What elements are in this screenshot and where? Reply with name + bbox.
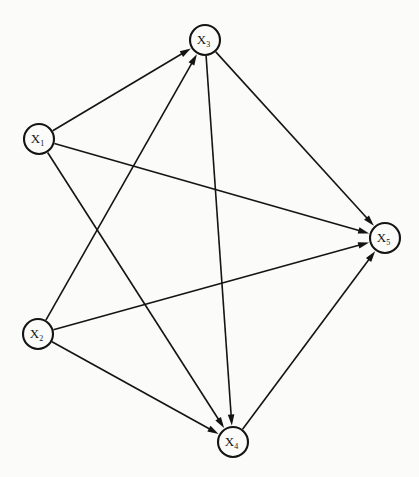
- edge-line: [54, 143, 363, 231]
- arrowhead-icon: [180, 48, 191, 56]
- graph-node-x4[interactable]: X4: [218, 427, 248, 457]
- edge-x4-to-x5: [243, 251, 376, 429]
- edges-layer: [46, 48, 375, 434]
- edge-x3-to-x5: [216, 52, 374, 226]
- graph-node-x3[interactable]: X3: [190, 25, 220, 55]
- arrowhead-icon: [228, 414, 235, 425]
- edge-x2-to-x3: [46, 54, 197, 320]
- edge-line: [243, 256, 372, 429]
- node-subscript-x2: 2: [39, 333, 43, 342]
- edge-line: [52, 342, 213, 431]
- edge-x1-to-x5: [54, 143, 369, 233]
- edge-x1-to-x3: [53, 48, 191, 130]
- node-subscript-x1: 1: [40, 138, 44, 147]
- edge-line: [48, 152, 221, 423]
- arrowhead-icon: [358, 227, 369, 233]
- edge-x2-to-x5: [53, 242, 369, 330]
- graph-node-x5[interactable]: X5: [370, 223, 400, 253]
- edge-line: [53, 244, 363, 330]
- graph-node-x1[interactable]: X1: [24, 124, 54, 154]
- arrowhead-icon: [215, 417, 224, 428]
- edge-line: [53, 52, 186, 131]
- arrowhead-icon: [358, 242, 369, 248]
- edge-line: [206, 56, 231, 420]
- node-subscript-x3: 3: [206, 39, 210, 48]
- arrowhead-icon: [207, 426, 218, 434]
- edge-x2-to-x4: [52, 342, 219, 434]
- graph-diagram-canvas: X1X2X3X4X5: [0, 0, 419, 477]
- node-subscript-x4: 4: [234, 441, 238, 450]
- node-subscript-x5: 5: [386, 237, 390, 246]
- nodes-layer: X1X2X3X4X5: [23, 25, 400, 457]
- graph-node-x2[interactable]: X2: [23, 319, 53, 349]
- graph-svg: X1X2X3X4X5: [0, 0, 419, 477]
- arrowhead-icon: [189, 54, 197, 65]
- edge-line: [46, 60, 194, 320]
- arrowhead-icon: [366, 251, 375, 262]
- edge-x3-to-x4: [206, 56, 234, 426]
